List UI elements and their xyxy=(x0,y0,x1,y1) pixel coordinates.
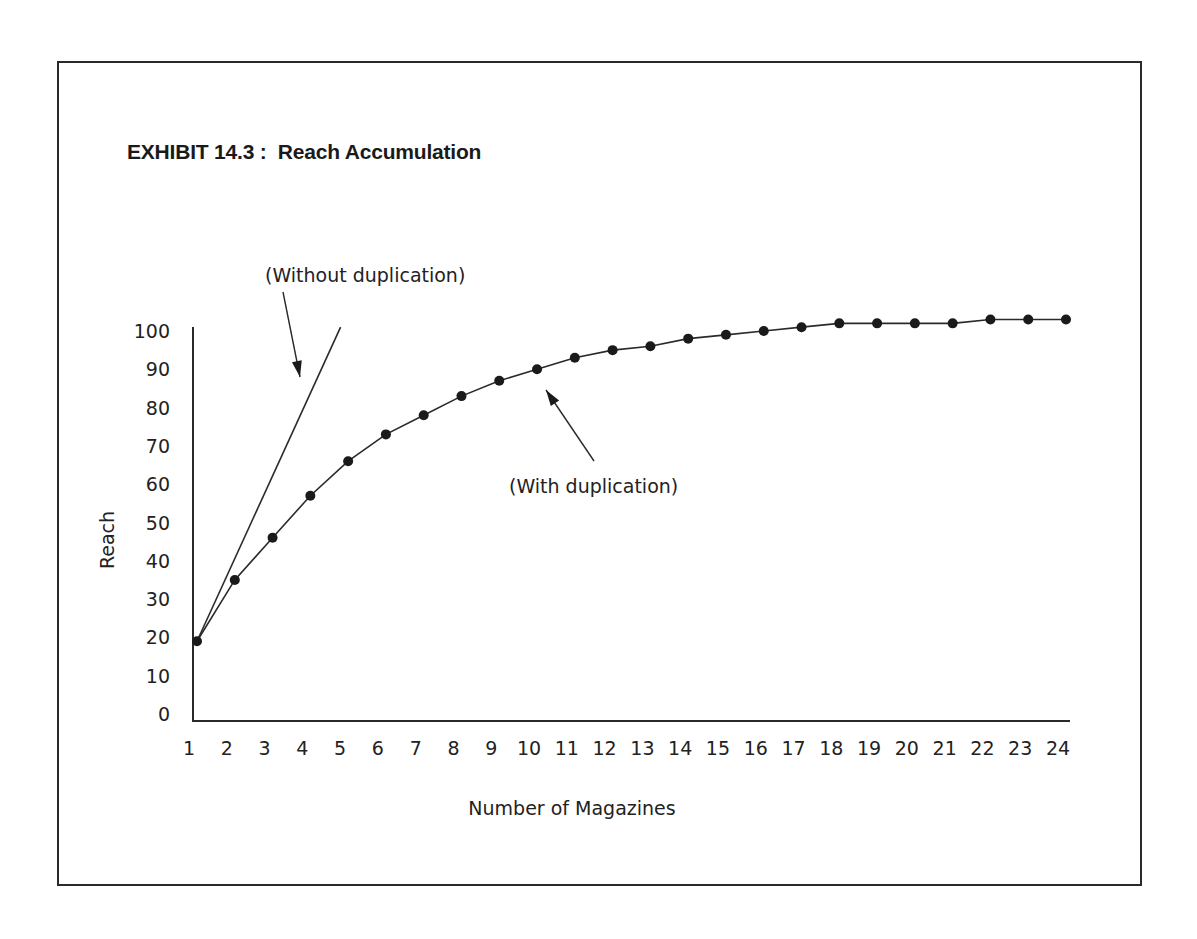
data-point xyxy=(456,391,466,401)
data-point xyxy=(721,330,731,340)
data-point xyxy=(419,410,429,420)
data-point xyxy=(343,456,353,466)
x-tick-label: 4 xyxy=(296,737,308,759)
y-tick-labels: 0102030405060708090100 xyxy=(134,320,170,725)
x-tick-label: 22 xyxy=(970,737,994,759)
data-point xyxy=(872,318,882,328)
x-tick-label: 14 xyxy=(668,737,692,759)
x-tick-label: 8 xyxy=(447,737,459,759)
x-tick-label: 1 xyxy=(183,737,195,759)
y-tick-label: 60 xyxy=(146,473,170,495)
y-tick-label: 10 xyxy=(146,665,170,687)
x-tick-label: 5 xyxy=(334,737,346,759)
x-tick-label: 19 xyxy=(857,737,881,759)
data-point xyxy=(532,364,542,374)
data-point xyxy=(948,318,958,328)
data-point xyxy=(192,636,202,646)
x-tick-label: 17 xyxy=(781,737,805,759)
y-tick-label: 90 xyxy=(146,358,170,380)
data-point xyxy=(683,334,693,344)
axes xyxy=(192,327,1070,721)
x-tick-label: 11 xyxy=(555,737,579,759)
data-point xyxy=(1023,315,1033,325)
y-tick-label: 0 xyxy=(158,703,170,725)
x-tick-label: 15 xyxy=(706,737,730,759)
x-tick-label: 16 xyxy=(744,737,768,759)
y-axis-label: Reach xyxy=(96,511,118,569)
data-point xyxy=(985,315,995,325)
x-tick-labels: 123456789101112131415161718192021222324 xyxy=(183,737,1070,759)
data-point xyxy=(645,341,655,351)
data-point xyxy=(834,318,844,328)
reach-chart: 0102030405060708090100 12345678910111213… xyxy=(0,0,1197,939)
annotations: (Without duplication) (With duplication) xyxy=(265,264,678,497)
x-tick-label: 7 xyxy=(410,737,422,759)
annotation-with-duplication: (With duplication) xyxy=(509,475,678,497)
x-tick-label: 10 xyxy=(517,737,541,759)
y-tick-label: 30 xyxy=(146,588,170,610)
data-point xyxy=(759,326,769,336)
y-tick-label: 80 xyxy=(146,397,170,419)
y-tick-label: 50 xyxy=(146,512,170,534)
data-point xyxy=(268,533,278,543)
y-tick-label: 70 xyxy=(146,435,170,457)
data-point xyxy=(381,429,391,439)
x-tick-label: 9 xyxy=(485,737,497,759)
x-tick-label: 20 xyxy=(895,737,919,759)
x-tick-label: 21 xyxy=(933,737,957,759)
data-point xyxy=(797,322,807,332)
x-tick-label: 23 xyxy=(1008,737,1032,759)
data-point xyxy=(494,376,504,386)
x-axis-label: Number of Magazines xyxy=(468,797,675,819)
y-tick-label: 100 xyxy=(134,320,170,342)
data-point xyxy=(910,318,920,328)
y-tick-label: 20 xyxy=(146,626,170,648)
data-point xyxy=(230,575,240,585)
y-tick-label: 40 xyxy=(146,550,170,572)
annotation-without-duplication: (Without duplication) xyxy=(265,264,465,286)
x-tick-label: 18 xyxy=(819,737,843,759)
x-tick-label: 3 xyxy=(259,737,271,759)
x-tick-label: 2 xyxy=(221,737,233,759)
data-point xyxy=(570,353,580,363)
x-tick-label: 24 xyxy=(1046,737,1070,759)
data-point xyxy=(305,491,315,501)
series-line-without-duplication xyxy=(197,327,341,641)
data-point xyxy=(1061,315,1071,325)
x-tick-label: 6 xyxy=(372,737,384,759)
data-point xyxy=(608,345,618,355)
arrow-with-duplication xyxy=(546,390,594,461)
arrow-without-duplication xyxy=(283,292,302,377)
x-tick-label: 13 xyxy=(630,737,654,759)
x-tick-label: 12 xyxy=(593,737,617,759)
